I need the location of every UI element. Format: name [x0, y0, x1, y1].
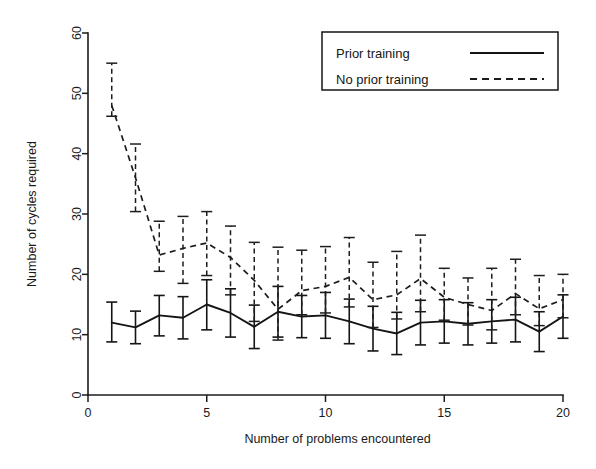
legend-label: Prior training [336, 46, 410, 61]
legend-label: No prior training [336, 72, 429, 87]
x-axis-tick-label: 15 [437, 406, 451, 420]
series-no-prior-training [106, 63, 568, 340]
y-axis-tick-label: 50 [70, 86, 84, 100]
y-axis-tick-label: 20 [70, 267, 84, 281]
y-axis-tick-label: 10 [70, 328, 84, 342]
chart-legend: Prior trainingNo prior training [322, 32, 558, 90]
data-series-group [106, 63, 568, 354]
chart-figure: 0102030405060 05101520 Prior trainingNo … [0, 0, 596, 469]
x-axis: 05101520 [85, 395, 570, 420]
y-axis-tick-label: 30 [70, 207, 84, 221]
x-axis-tick-label: 10 [319, 406, 333, 420]
line-chart: 0102030405060 05101520 Prior trainingNo … [0, 0, 596, 469]
y-axis-tick-label: 40 [70, 147, 84, 161]
y-axis-title: Number of cycles required [25, 141, 39, 287]
y-axis-tick-label: 0 [70, 391, 84, 398]
y-axis-tick-label: 60 [70, 26, 84, 40]
x-axis-title: Number of problems encountered [244, 432, 430, 446]
x-axis-tick-label: 20 [556, 406, 570, 420]
series-line [112, 105, 563, 310]
y-axis: 0102030405060 [70, 26, 88, 398]
x-axis-tick-label: 5 [203, 406, 210, 420]
x-axis-tick-label: 0 [85, 406, 92, 420]
series-prior-training [106, 280, 568, 355]
